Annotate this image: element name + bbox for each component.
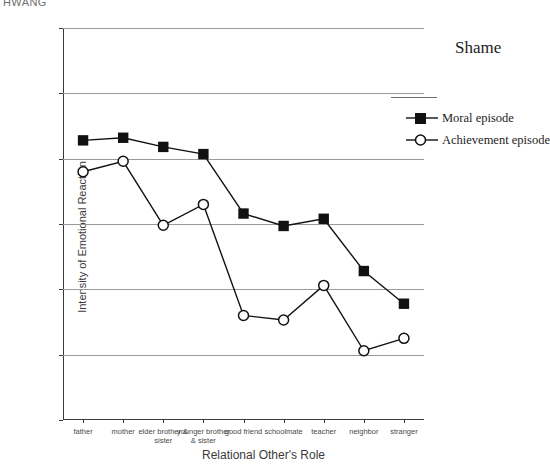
data-point-circle <box>198 199 208 209</box>
data-series-layer <box>63 28 424 420</box>
series-line <box>83 161 404 350</box>
running-head: HWANG <box>3 0 47 8</box>
data-point-circle <box>118 156 128 166</box>
data-point-circle <box>78 167 88 177</box>
data-point-square <box>238 208 248 218</box>
data-point-square <box>78 135 88 145</box>
data-point-square <box>319 214 329 224</box>
data-point-circle <box>158 220 168 230</box>
x-axis-title: Relational Other's Role <box>0 448 527 462</box>
chart-title: Shame <box>455 38 501 58</box>
data-point-square <box>158 142 168 152</box>
legend-label-achievement-episode: Achievement episode <box>442 133 550 148</box>
data-point-square <box>278 221 288 231</box>
data-point-circle <box>399 333 409 343</box>
data-point-square <box>118 133 128 143</box>
plot-area: 0123456 fathermotherelder brother & sist… <box>63 28 424 420</box>
data-point-square <box>198 149 208 159</box>
legend-label-moral-episode: Moral episode <box>442 111 514 126</box>
data-point-circle <box>279 315 289 325</box>
x-tick-label: stranger <box>377 428 431 437</box>
data-point-circle <box>319 280 329 290</box>
y-tick-mark <box>59 420 63 421</box>
data-point-circle <box>359 346 369 356</box>
data-point-circle <box>239 310 249 320</box>
data-point-square <box>359 266 369 276</box>
series-line <box>83 138 404 304</box>
data-point-square <box>399 299 409 309</box>
